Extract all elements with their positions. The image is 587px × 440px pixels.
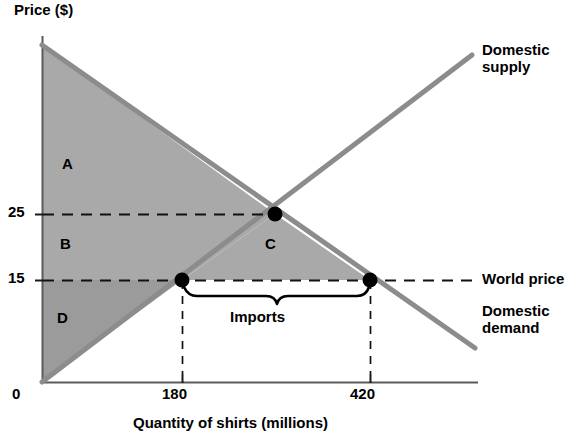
imports-annotation-label: Imports	[230, 309, 285, 326]
region-label-a: A	[62, 156, 73, 173]
domestic-supply-curve-label: Domestic supply	[482, 42, 550, 76]
imports-brace	[184, 287, 369, 304]
world-price-line-label: World price	[482, 271, 564, 288]
x-axis-tick-label-180: 180	[162, 386, 187, 403]
region-label-d: D	[57, 310, 68, 327]
quantity-supplied-point-marker	[175, 273, 190, 288]
region-label-c: C	[265, 236, 276, 253]
x-axis-tick-label-420: 420	[350, 386, 375, 403]
domestic-demand-curve-label: Domestic demand	[482, 303, 550, 337]
y-axis-tick-label-15: 15	[8, 270, 25, 287]
equilibrium-point-marker	[268, 207, 283, 222]
quantity-demanded-point-marker	[363, 273, 378, 288]
quantity-axis-title: Quantity of shirts (millions)	[133, 415, 328, 432]
origin-tick-label: 0	[12, 386, 20, 403]
region-label-b: B	[60, 236, 71, 253]
y-axis-tick-label-25: 25	[8, 204, 25, 221]
price-axis-title: Price ($)	[14, 2, 73, 19]
